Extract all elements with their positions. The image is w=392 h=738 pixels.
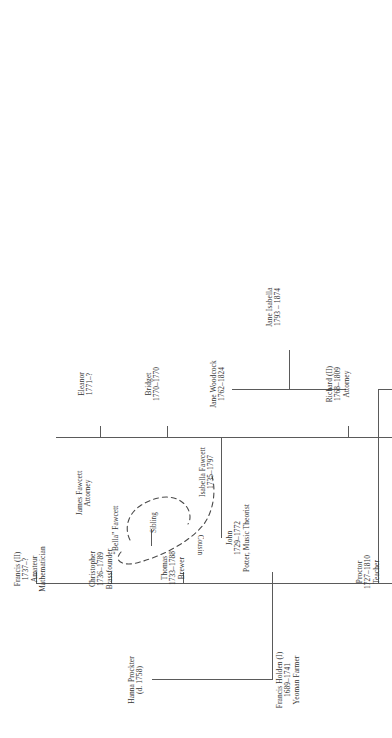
node-dates: 1770–1770 (153, 344, 161, 424)
relation-label-sibling: Sibling (150, 512, 158, 533)
tree-canvas: Cousin Sibling Francis Holden (I) 1689–1… (0, 0, 392, 738)
stub-john (272, 572, 273, 584)
descent-line-john (221, 438, 222, 522)
node-occupation: Brewer (178, 530, 186, 606)
node-john[interactable]: John 1729–1772 Potter, Music Theorist (226, 478, 251, 598)
relation-label-cousin: Cousin (196, 535, 204, 555)
node-occupation: Attorney (343, 344, 351, 424)
node-eleanor[interactable]: Eleanor 1771–? (78, 346, 95, 422)
node-james-fawcett[interactable]: James Fawcett Attorney (76, 452, 93, 534)
node-occupation: Yeoman Farmer (293, 632, 301, 728)
node-occupation: Potter, Music Theorist (243, 478, 251, 598)
node-thomas[interactable]: Thomas 1733–1788 Brewer (161, 530, 186, 606)
node-dates: 1771–? (86, 346, 94, 422)
node-occupation: Attorney (84, 452, 92, 534)
node-bridget[interactable]: Bridget 1770–1770 (145, 344, 162, 424)
marriage-line-gen1 (152, 679, 272, 680)
node-name: “Bella” Fawcett (112, 492, 120, 568)
stub-richard-ii (348, 426, 349, 438)
node-dates: 1735–1797 (207, 428, 215, 516)
descent-line-gen1 (272, 584, 273, 680)
node-proctor[interactable]: Proctor 1727–1810 Teacher (356, 534, 381, 610)
stub-eleanor (100, 426, 101, 438)
node-jane-woodcock[interactable]: Jane Woodcock 1762–1824 (210, 340, 227, 428)
node-bella-fawcett[interactable]: “Bella” Fawcett (112, 492, 120, 568)
node-dates: 1793 – 1874 (274, 266, 282, 348)
node-jane-isabella[interactable]: Jane Isabella 1793 – 1874 (266, 266, 283, 348)
node-occupation-2: Mathematician (39, 526, 47, 612)
sibling-spine-gen3 (56, 437, 392, 438)
node-isabella-fawcett[interactable]: Isabella Fawcett 1735–1797 (199, 428, 216, 516)
descent-richard-ii (289, 350, 290, 390)
node-francis-holden-i[interactable]: Francis Holden (I) 1689–1741 Yeoman Farm… (276, 632, 301, 728)
node-occupation: Teacher (373, 534, 381, 610)
node-francis-ii[interactable]: Francis (II) 1737–? Amateur Mathematicia… (14, 526, 47, 612)
stub-bridget (167, 426, 168, 438)
francis-iii-vertical (378, 389, 392, 390)
family-tree-diagram: Cousin Sibling Francis Holden (I) 1689–1… (0, 0, 392, 738)
node-hanna-prockter[interactable]: Hanna Prockter (d. 1758) (128, 634, 145, 726)
marriage-line-john-isabella (221, 522, 222, 538)
node-richard-ii[interactable]: Richard (II) 1768–1809 Attorney (326, 344, 351, 424)
node-dates: 1762–1824 (218, 340, 226, 428)
node-dates: (d. 1758) (136, 634, 144, 726)
